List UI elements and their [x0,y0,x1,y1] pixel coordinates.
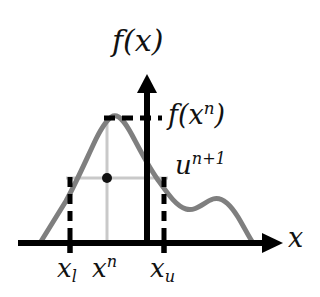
x-current-superscript: n [107,252,117,271]
x-current-tick-label: xn [92,255,117,281]
function-value-close: ) [215,99,226,130]
x-upper-tick-label: xu [150,255,175,281]
upper-value-base: u [175,150,192,180]
x-lower-base: x [57,253,72,283]
upper-value-label: un+1 [175,152,226,178]
y-axis-label: f(x) [112,26,163,56]
x-upper-base: x [150,253,165,283]
figure-root: f(x) f(xn) un+1 x xl xn xu [0,0,320,297]
x-lower-subscript: l [72,267,77,286]
x-lower-tick-label: xl [57,255,77,281]
y-axis-arrowhead [137,74,157,93]
function-value-label: f(xn) [168,101,225,128]
x-axis-label: x [288,224,303,251]
function-value-base: f(x [168,99,204,130]
function-value-superscript: n [204,98,215,118]
current-point-marker [102,173,112,183]
x-current-base: x [92,253,107,283]
upper-value-superscript: n+1 [192,149,226,168]
x-axis-arrowhead [262,233,283,253]
x-upper-subscript: u [165,267,175,286]
